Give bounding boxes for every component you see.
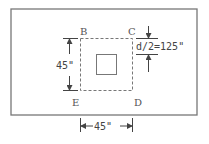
- horizontal-dimension-label: 45": [94, 121, 112, 132]
- column: [97, 55, 117, 75]
- offset-dimension: d/2=125": [136, 26, 184, 72]
- corner-label-c: C: [128, 26, 136, 37]
- vertical-dimension-label: 45": [56, 60, 74, 71]
- diagram-canvas: B C E D 45" 45" d/2=125": [0, 0, 209, 144]
- vertical-dimension: 45": [56, 39, 78, 91]
- critical-perimeter: [81, 39, 133, 91]
- corner-label-b: B: [80, 26, 87, 37]
- slab-outline: [11, 9, 197, 115]
- corner-label-e: E: [72, 97, 79, 108]
- horizontal-dimension: 45": [81, 118, 133, 132]
- offset-dimension-label: d/2=125": [136, 41, 184, 52]
- corner-label-d: D: [134, 97, 142, 108]
